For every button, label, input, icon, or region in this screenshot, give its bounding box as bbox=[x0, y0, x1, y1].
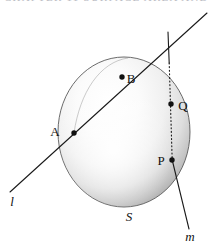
line-m-segment-top bbox=[168, 32, 169, 63]
line-label-m: m bbox=[185, 229, 194, 244]
point-marker-B bbox=[119, 74, 124, 79]
geometry-figure: CHAPTER 11 SURFACE AREA AND VOLUME bbox=[0, 0, 215, 248]
sphere-diagram-svg: A B Q P l m S bbox=[0, 0, 215, 248]
point-label-Q: Q bbox=[178, 98, 188, 113]
sphere-shape bbox=[58, 57, 190, 207]
point-marker-A bbox=[71, 130, 76, 135]
sphere-highlight bbox=[58, 57, 190, 207]
point-label-A: A bbox=[50, 124, 60, 139]
line-label-l: l bbox=[10, 194, 14, 209]
point-marker-Q bbox=[168, 101, 173, 106]
sphere-label-S: S bbox=[126, 209, 133, 224]
point-marker-P bbox=[169, 157, 174, 162]
point-label-B: B bbox=[127, 71, 136, 86]
point-label-P: P bbox=[157, 153, 164, 168]
